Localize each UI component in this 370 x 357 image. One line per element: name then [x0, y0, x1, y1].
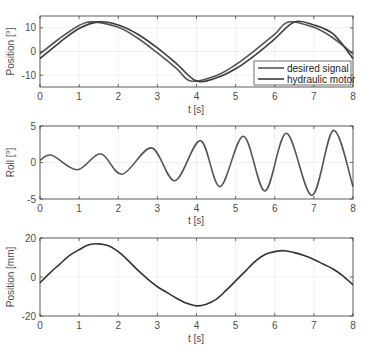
y-tick-label: 0 [30, 272, 36, 283]
x-tick-label: 6 [272, 203, 278, 214]
legend: desired signalhydraulic motor [254, 61, 356, 85]
x-tick-label: 7 [311, 320, 317, 331]
x-axis-label: t [s] [188, 333, 204, 344]
x-tick-label: 4 [194, 203, 200, 214]
x-tick-label: 4 [194, 320, 200, 331]
position-mm-plot: 012345678-20020t [s]Position [mm] [5, 233, 356, 345]
legend-label: desired signal [287, 63, 349, 74]
y-tick-label: 20 [25, 233, 37, 244]
x-tick-label: 0 [37, 91, 43, 102]
y-tick-label: 0 [30, 46, 36, 57]
y-axis-label: Roll [°] [5, 147, 16, 177]
y-tick-label: 10 [25, 22, 37, 33]
x-tick-label: 1 [76, 203, 82, 214]
x-axis-label: t [s] [188, 104, 204, 115]
x-tick-label: 8 [350, 320, 356, 331]
x-tick-label: 0 [37, 203, 43, 214]
x-tick-label: 5 [233, 203, 239, 214]
x-tick-label: 3 [155, 203, 161, 214]
y-tick-label: 0 [30, 157, 36, 168]
x-tick-label: 1 [76, 320, 82, 331]
position-deg-plot: 012345678-10010t [s]Position [°]desired … [5, 16, 356, 115]
x-axis-label: t [s] [188, 215, 204, 226]
x-tick-label: 3 [155, 91, 161, 102]
x-tick-label: 4 [194, 91, 200, 102]
x-tick-label: 6 [272, 91, 278, 102]
x-tick-label: 7 [311, 91, 317, 102]
x-tick-label: 6 [272, 320, 278, 331]
y-axis-label: Position [mm] [5, 246, 16, 307]
x-tick-label: 8 [350, 91, 356, 102]
x-tick-label: 5 [233, 320, 239, 331]
roll-plot: 012345678-505t [s]Roll [°] [5, 121, 356, 227]
y-tick-label: -5 [27, 194, 36, 205]
x-tick-label: 2 [115, 203, 121, 214]
x-tick-label: 2 [115, 320, 121, 331]
x-tick-label: 7 [311, 203, 317, 214]
x-tick-label: 2 [115, 91, 121, 102]
y-axis-label: Position [°] [5, 27, 16, 75]
x-tick-label: 5 [233, 91, 239, 102]
figure: 012345678-10010t [s]Position [°]desired … [0, 0, 370, 357]
x-tick-label: 8 [350, 203, 356, 214]
y-tick-label: 5 [30, 121, 36, 132]
y-tick-label: -10 [22, 70, 37, 81]
x-tick-label: 0 [37, 320, 43, 331]
y-tick-label: -20 [22, 311, 37, 322]
legend-label: hydraulic motor [287, 74, 356, 85]
x-tick-label: 1 [76, 91, 82, 102]
x-tick-label: 3 [155, 320, 161, 331]
